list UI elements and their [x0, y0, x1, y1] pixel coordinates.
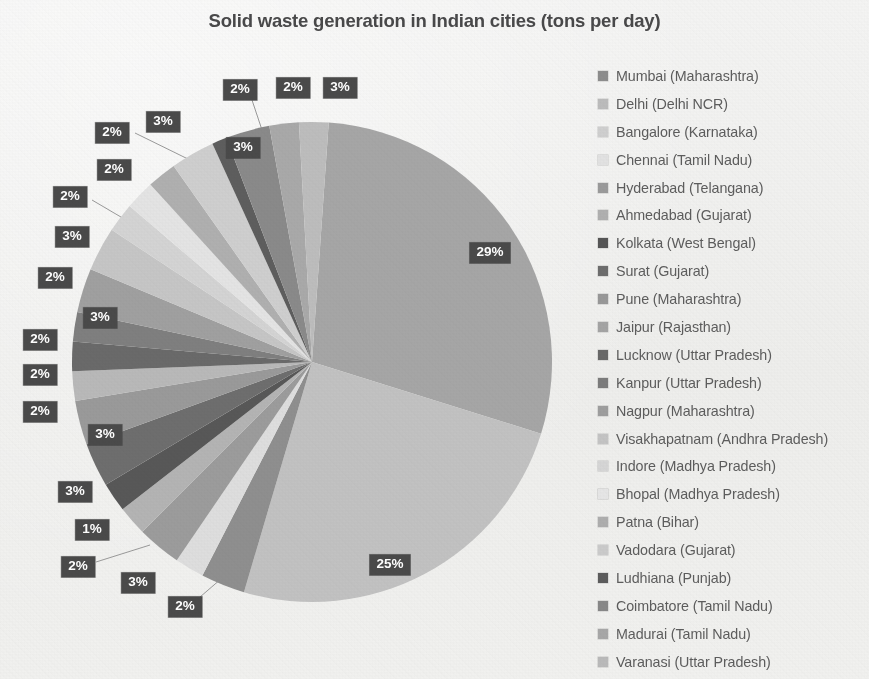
legend-item[interactable]: Mumbai (Maharashtra) [598, 62, 866, 90]
legend-item[interactable]: Jaipur (Rajasthan) [598, 313, 866, 341]
legend-color-swatch-icon [598, 210, 608, 220]
legend-item[interactable]: Varanasi (Uttar Pradesh) [598, 648, 866, 676]
legend-item-label: Coimbatore (Tamil Nadu) [616, 598, 773, 614]
slice-percentage-label: 2% [61, 556, 95, 577]
legend-color-swatch-icon [598, 350, 608, 360]
slice-percentage-label: 1% [75, 519, 109, 540]
legend-item[interactable]: Coimbatore (Tamil Nadu) [598, 592, 866, 620]
legend-item[interactable]: Chennai (Tamil Nadu) [598, 146, 866, 174]
legend-item[interactable]: Ahmedabad (Gujarat) [598, 201, 866, 229]
legend-item-label: Mumbai (Maharashtra) [616, 68, 759, 84]
pie-slices-group: Mumbai (Maharashtra) — 29%Delhi (Delhi N… [72, 122, 552, 602]
slice-percentage-label: 2% [95, 122, 129, 143]
slice-percentage-label: 3% [83, 307, 117, 328]
legend-color-swatch-icon [598, 545, 608, 555]
legend-item-label: Vadodara (Gujarat) [616, 542, 736, 558]
slice-percentage-label: 3% [58, 481, 92, 502]
legend-color-swatch-icon [598, 378, 608, 388]
legend-item[interactable]: Ludhiana (Punjab) [598, 564, 866, 592]
legend-item-label: Bhopal (Madhya Pradesh) [616, 486, 780, 502]
legend-color-swatch-icon [598, 155, 608, 165]
legend-item[interactable]: Indore (Madhya Pradesh) [598, 452, 866, 480]
slice-percentage-label: 2% [53, 186, 87, 207]
legend-item-label: Jaipur (Rajasthan) [616, 319, 731, 335]
legend-item-label: Kanpur (Uttar Pradesh) [616, 375, 762, 391]
legend-item-label: Madurai (Tamil Nadu) [616, 626, 751, 642]
legend-color-swatch-icon [598, 629, 608, 639]
legend-color-swatch-icon [598, 322, 608, 332]
legend-item[interactable]: Surat (Gujarat) [598, 257, 866, 285]
slice-percentage-label: 2% [23, 329, 57, 350]
slice-percentage-label: 3% [323, 77, 357, 98]
legend-color-swatch-icon [598, 434, 608, 444]
slice-percentage-label: 2% [276, 77, 310, 98]
legend-item-label: Ludhiana (Punjab) [616, 570, 731, 586]
legend-color-swatch-icon [598, 573, 608, 583]
legend-color-swatch-icon [598, 489, 608, 499]
legend-item-label: Kolkata (West Bengal) [616, 235, 756, 251]
legend-color-swatch-icon [598, 71, 608, 81]
legend-item[interactable]: Kanpur (Uttar Pradesh) [598, 369, 866, 397]
legend-color-swatch-icon [598, 601, 608, 611]
slice-percentage-label: 3% [146, 111, 180, 132]
legend-color-swatch-icon [598, 461, 608, 471]
legend-item[interactable]: Hyderabad (Telangana) [598, 174, 866, 202]
legend-item[interactable]: Madurai (Tamil Nadu) [598, 620, 866, 648]
slice-percentage-label: 3% [55, 226, 89, 247]
legend-item-label: Bangalore (Karnataka) [616, 124, 758, 140]
legend-color-swatch-icon [598, 517, 608, 527]
legend-item[interactable]: Patna (Bihar) [598, 508, 866, 536]
legend-item[interactable]: Bangalore (Karnataka) [598, 118, 866, 146]
slice-percentage-label: 2% [223, 79, 257, 100]
slice-percentage-label: 2% [23, 364, 57, 385]
legend-item-label: Indore (Madhya Pradesh) [616, 458, 776, 474]
label-leader-line [96, 545, 150, 562]
legend-item[interactable]: Delhi (Delhi NCR) [598, 90, 866, 118]
legend-item-label: Hyderabad (Telangana) [616, 180, 763, 196]
slice-percentage-label: 2% [97, 159, 131, 180]
pie-plot-area: Mumbai (Maharashtra) — 29%Delhi (Delhi N… [0, 0, 600, 679]
slice-percentage-label: 29% [469, 242, 510, 263]
chart-container: Solid waste generation in Indian cities … [0, 0, 869, 679]
legend-color-swatch-icon [598, 127, 608, 137]
legend-item-label: Surat (Gujarat) [616, 263, 709, 279]
legend-item[interactable]: Vadodara (Gujarat) [598, 536, 866, 564]
legend-color-swatch-icon [598, 657, 608, 667]
legend-color-swatch-icon [598, 294, 608, 304]
chart-legend: Mumbai (Maharashtra)Delhi (Delhi NCR)Ban… [598, 62, 866, 676]
legend-item-label: Delhi (Delhi NCR) [616, 96, 728, 112]
legend-color-swatch-icon [598, 406, 608, 416]
legend-item[interactable]: Kolkata (West Bengal) [598, 229, 866, 257]
legend-item[interactable]: Visakhapatnam (Andhra Pradesh) [598, 425, 866, 453]
legend-item-label: Pune (Maharashtra) [616, 291, 741, 307]
legend-item[interactable]: Lucknow (Uttar Pradesh) [598, 341, 866, 369]
slice-percentage-label: 3% [88, 424, 122, 445]
legend-item-label: Chennai (Tamil Nadu) [616, 152, 752, 168]
slice-percentage-label: 2% [23, 401, 57, 422]
legend-item-label: Varanasi (Uttar Pradesh) [616, 654, 771, 670]
label-leader-line [135, 133, 190, 160]
slice-percentage-label: 25% [369, 554, 410, 575]
legend-item[interactable]: Bhopal (Madhya Pradesh) [598, 480, 866, 508]
legend-item-label: Patna (Bihar) [616, 514, 699, 530]
slice-percentage-label: 2% [168, 596, 202, 617]
slice-percentage-label: 3% [226, 137, 260, 158]
legend-item-label: Visakhapatnam (Andhra Pradesh) [616, 431, 828, 447]
slice-percentage-label: 2% [38, 267, 72, 288]
legend-item-label: Lucknow (Uttar Pradesh) [616, 347, 772, 363]
legend-item-label: Ahmedabad (Gujarat) [616, 207, 752, 223]
legend-color-swatch-icon [598, 99, 608, 109]
legend-item[interactable]: Pune (Maharashtra) [598, 285, 866, 313]
legend-item-label: Nagpur (Maharashtra) [616, 403, 755, 419]
slice-percentage-label: 3% [121, 572, 155, 593]
legend-color-swatch-icon [598, 266, 608, 276]
legend-item[interactable]: Nagpur (Maharashtra) [598, 397, 866, 425]
legend-color-swatch-icon [598, 238, 608, 248]
legend-color-swatch-icon [598, 183, 608, 193]
